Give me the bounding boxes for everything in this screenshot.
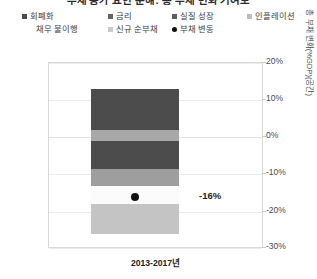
bar-segment-real-growth[interactable] — [91, 141, 179, 169]
legend-item-default[interactable]: 채무 불이행 — [36, 24, 78, 34]
legend-label: 실질 성장 — [180, 11, 214, 21]
legend-item-debt-change[interactable]: 부채 변동 — [172, 24, 214, 34]
legend-item-monetization[interactable]: 회폐화 — [22, 11, 54, 21]
stacked-bar[interactable] — [91, 63, 179, 247]
legend-swatch-icon — [172, 14, 177, 19]
ytick-label-20: 20% — [266, 57, 283, 66]
gridline-neg30 — [49, 248, 262, 249]
legend-dot-icon — [172, 27, 177, 32]
bar-segment-inflation[interactable] — [91, 169, 179, 186]
y-axis-title: 총 부채 변화(%GDP)(공간) — [305, 9, 316, 96]
ytick-label-neg20: -20% — [266, 206, 286, 215]
legend-swatch-icon — [247, 14, 252, 19]
legend-label: 금리 — [116, 11, 132, 21]
legend-swatch-icon — [108, 14, 113, 19]
legend-swatch-icon — [108, 27, 113, 32]
bar-segment-monetization[interactable] — [91, 89, 179, 130]
bar-segment-new-net-debt[interactable] — [91, 204, 179, 234]
legend-item-interest-rate[interactable]: 금리 — [108, 11, 132, 21]
legend-label: 회폐화 — [30, 11, 54, 21]
debt-change-marker[interactable] — [131, 193, 139, 201]
ytick-label-10: 10% — [266, 94, 283, 103]
bar-segment-interest-rate[interactable] — [91, 130, 179, 141]
chart-title: 부채 증가 요인 분해: 총 부채 변화 기여도 — [0, 0, 317, 5]
legend-label: 신규 순부채 — [116, 24, 158, 34]
debt-change-value-label: -16% — [199, 190, 221, 201]
legend-item-real-growth[interactable]: 실질 성장 — [172, 11, 214, 21]
legend-item-new-net-debt[interactable]: 신규 순부채 — [108, 24, 158, 34]
legend-swatch-icon — [22, 14, 27, 19]
x-axis-label: 2013-2017년 — [48, 256, 263, 268]
ytick-label-0: 0% — [266, 131, 278, 140]
ytick-label-neg10: -10% — [266, 168, 286, 177]
legend-item-inflation[interactable]: 인플레이션 — [247, 11, 295, 21]
chart-legend: 회폐화 금리 실질 성장 인플레이션 채무 불이행 신규 순부채 부채 변동 — [0, 11, 317, 41]
ytick-label-neg30: -30% — [266, 242, 286, 251]
plot-area: -16% — [48, 62, 263, 248]
legend-label: 인플레이션 — [255, 11, 295, 21]
legend-label: 부채 변동 — [180, 24, 214, 34]
legend-label: 채무 불이행 — [36, 24, 78, 34]
